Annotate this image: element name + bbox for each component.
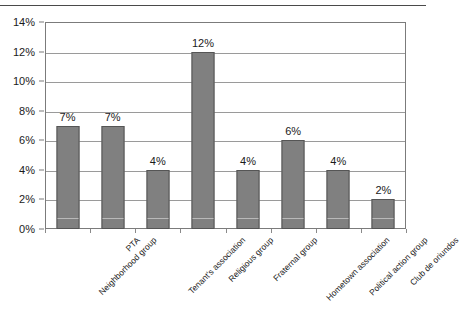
y-tick-mark xyxy=(39,140,44,141)
bar-value-label: 2% xyxy=(375,185,391,196)
bar-inner-line xyxy=(102,218,123,219)
y-tick-label: 0% xyxy=(19,224,35,235)
y-tick-label: 12% xyxy=(13,46,35,57)
y-tick-label: 2% xyxy=(19,194,35,205)
x-tick-mark xyxy=(226,229,227,233)
x-tick-mark xyxy=(406,229,407,233)
y-tick-mark xyxy=(39,229,44,230)
x-tick-mark xyxy=(316,229,317,233)
x-tick-label: Fraternal group xyxy=(271,235,319,283)
y-tick-label: 6% xyxy=(19,135,35,146)
bar-slot: 4% xyxy=(135,22,180,229)
bar-inner-line xyxy=(328,218,349,219)
bar-inner-line xyxy=(238,218,259,219)
bar[interactable] xyxy=(191,52,214,229)
bar-slot: 4% xyxy=(226,22,271,229)
bar[interactable] xyxy=(101,126,124,230)
y-tick-mark xyxy=(39,169,44,170)
bar-slot: 4% xyxy=(316,22,361,229)
bar-inner-line xyxy=(57,218,78,219)
bar-inner-line xyxy=(373,218,394,219)
y-tick-label: 4% xyxy=(19,164,35,175)
x-axis-labels: Neighborhood groupPTATenant's associatio… xyxy=(45,229,406,322)
bar[interactable] xyxy=(372,199,395,229)
y-tick-mark xyxy=(39,199,44,200)
x-tick-mark xyxy=(361,229,362,233)
y-tick-label: 10% xyxy=(13,76,35,87)
y-tick-mark xyxy=(39,81,44,82)
bar-inner-line xyxy=(283,218,304,219)
bar[interactable] xyxy=(282,140,305,229)
bar-slot: 12% xyxy=(180,22,225,229)
bar-value-label: 4% xyxy=(240,156,256,167)
x-tick-mark xyxy=(45,229,46,233)
page-top-rule xyxy=(0,5,426,6)
bar-value-label: 4% xyxy=(150,156,166,167)
bars-layer: 7%7%4%12%4%6%4%2% xyxy=(45,22,406,229)
bar[interactable] xyxy=(327,170,350,229)
y-tick-label: 14% xyxy=(13,17,35,28)
x-tick-mark xyxy=(271,229,272,233)
bar-value-label: 12% xyxy=(192,38,214,49)
bar-value-label: 7% xyxy=(60,112,76,123)
x-tick-mark xyxy=(90,229,91,233)
y-tick-mark xyxy=(39,22,44,23)
x-tick-mark xyxy=(180,229,181,233)
bar-slot: 2% xyxy=(361,22,406,229)
x-tick-mark xyxy=(135,229,136,233)
bar-slot: 6% xyxy=(271,22,316,229)
y-tick-mark xyxy=(39,110,44,111)
bar[interactable] xyxy=(146,170,169,229)
bar-value-label: 6% xyxy=(285,126,301,137)
bar[interactable] xyxy=(237,170,260,229)
y-tick-label: 8% xyxy=(19,105,35,116)
bar-slot: 7% xyxy=(45,22,90,229)
bar-slot: 7% xyxy=(90,22,135,229)
y-tick-mark xyxy=(39,51,44,52)
bar-inner-line xyxy=(147,218,168,219)
bar-inner-line xyxy=(192,218,213,219)
y-axis: 0%2%4%6%8%10%12%14% xyxy=(0,22,41,229)
bar[interactable] xyxy=(56,126,79,230)
bar-value-label: 4% xyxy=(330,156,346,167)
x-tick-label: Hometown association xyxy=(324,235,392,303)
bar-value-label: 7% xyxy=(105,112,121,123)
